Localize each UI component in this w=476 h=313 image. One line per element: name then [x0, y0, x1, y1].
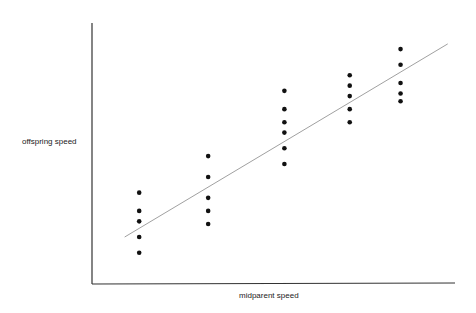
data-point: [282, 130, 287, 135]
data-point: [398, 62, 403, 67]
data-point: [137, 219, 142, 224]
data-point: [398, 47, 403, 52]
data-point: [206, 209, 211, 214]
data-point: [137, 235, 142, 240]
data-point: [282, 146, 287, 151]
data-point: [347, 120, 352, 125]
data-point: [206, 222, 211, 227]
data-point: [137, 209, 142, 214]
y-axis-label: offspring speed: [22, 137, 77, 146]
data-point: [282, 89, 287, 94]
data-point: [347, 94, 352, 99]
data-points: [137, 47, 403, 255]
data-point: [206, 196, 211, 201]
axes: [92, 23, 455, 284]
data-point: [398, 99, 403, 104]
data-point: [347, 107, 352, 112]
scatter-plot: [0, 0, 476, 313]
data-point: [282, 120, 287, 125]
data-point: [206, 154, 211, 159]
data-point: [206, 175, 211, 180]
data-point: [282, 107, 287, 112]
data-point: [398, 91, 403, 96]
x-axis-label: midparent speed: [239, 291, 299, 300]
data-point: [398, 81, 403, 86]
data-point: [347, 73, 352, 78]
x-axis: [92, 283, 455, 284]
data-point: [347, 83, 352, 88]
data-point: [137, 250, 142, 255]
data-point: [137, 190, 142, 195]
regression-line: [125, 44, 448, 237]
data-point: [282, 162, 287, 167]
